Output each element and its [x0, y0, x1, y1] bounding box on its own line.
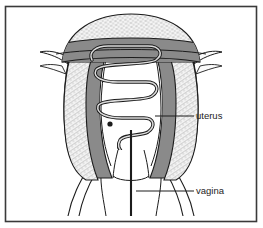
device-anchor	[107, 121, 112, 126]
label-vagina-text: vagina	[196, 185, 225, 196]
anatomical-figure: uterus vagina	[0, 0, 263, 228]
label-uterus-text: uterus	[196, 110, 223, 121]
figure-canvas: uterus vagina	[0, 0, 263, 228]
